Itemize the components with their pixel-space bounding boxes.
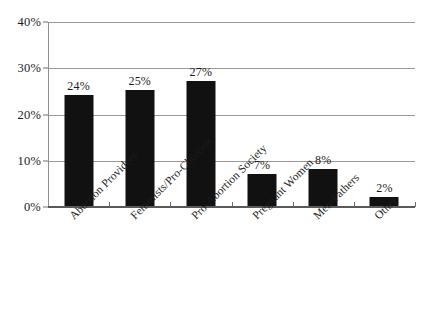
gridline xyxy=(48,161,415,162)
x-axis-line xyxy=(48,206,415,207)
x-tick-mark xyxy=(415,202,416,207)
y-axis-line xyxy=(48,22,49,207)
y-tick-label: 0% xyxy=(24,200,48,215)
bar-value-label: 27% xyxy=(190,65,213,80)
gridline xyxy=(48,22,415,23)
bar-value-label: 8% xyxy=(315,153,331,168)
gridline xyxy=(48,207,415,208)
bar-value-label: 24% xyxy=(67,79,90,94)
gridline xyxy=(48,115,415,116)
y-tick-label: 30% xyxy=(17,61,48,76)
bar xyxy=(125,90,154,206)
gridline xyxy=(48,68,415,69)
bar-chart: 0%10%20%30%40% 24%25%27%7%8%2% Abortion … xyxy=(0,0,422,317)
y-tick-label: 40% xyxy=(17,15,48,30)
bar-value-label: 25% xyxy=(128,74,151,89)
y-tick-label: 20% xyxy=(17,107,48,122)
y-tick-label: 10% xyxy=(17,153,48,168)
